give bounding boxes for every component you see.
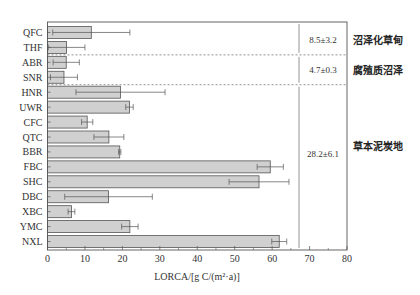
- bar-ymc: [48, 221, 139, 233]
- x-tick-label: 10: [80, 253, 90, 264]
- bars-layer: [48, 26, 289, 247]
- bar-rect: [48, 236, 280, 248]
- group-name-label: 腐殖质沼泽: [353, 64, 403, 76]
- y-tick-label: SHC: [23, 176, 43, 187]
- y-tick-label: QFC: [23, 27, 43, 38]
- x-tick-label: 60: [267, 253, 277, 264]
- x-tick-label: 0: [45, 253, 50, 264]
- y-tick-label: SNR: [23, 72, 43, 83]
- y-tick-label: QTC: [23, 132, 43, 143]
- bar-dbc: [48, 191, 153, 203]
- bar-uwr: [48, 101, 134, 113]
- x-tick-label: 30: [155, 253, 165, 264]
- bar-thf: [48, 41, 85, 53]
- bar-rect: [48, 101, 130, 113]
- bar-hnr: [48, 86, 166, 98]
- y-tick-label: DBC: [22, 191, 43, 202]
- bar-cfc: [48, 116, 93, 128]
- bar-fbc: [48, 161, 284, 173]
- group-name-label: 草本泥炭地: [353, 140, 403, 152]
- bar-xbc: [48, 206, 75, 218]
- group-1: 8.5±3.2沼泽化草甸: [48, 24, 404, 55]
- y-tick-label: ABR: [22, 57, 43, 68]
- bar-qfc: [48, 26, 130, 38]
- bar-qtc: [48, 131, 124, 143]
- x-tick-label: 40: [192, 253, 202, 264]
- bar-nxl: [48, 236, 287, 248]
- y-tick-label: CFC: [24, 117, 43, 128]
- y-tick-label: THF: [24, 42, 43, 53]
- group-mean-label: 4.7±0.3: [309, 65, 337, 75]
- bar-shc: [48, 176, 289, 188]
- group-name-label: 沼泽化草甸: [353, 34, 403, 46]
- bar-rect: [48, 146, 120, 158]
- lorca-bar-chart: QFCTHFABRSNRHNRUWRCFCQTCBBRFBCSHCDBCXBCY…: [0, 0, 420, 295]
- bar-rect: [48, 221, 130, 233]
- group-mean-label: 8.5±3.2: [309, 35, 336, 45]
- x-tick-label: 80: [342, 253, 352, 264]
- bar-snr: [48, 71, 78, 83]
- group-2: 4.7±0.3腐殖质沼泽: [48, 57, 404, 85]
- x-axis-label: LORCA/[g C/(m²·a)]: [154, 271, 239, 283]
- bar-abr: [48, 56, 80, 68]
- y-tick-label: XBC: [22, 206, 43, 217]
- x-tick-label: 20: [117, 253, 127, 264]
- y-tick-label: HNR: [21, 87, 42, 98]
- y-tick-label: YMC: [20, 221, 43, 232]
- y-tick-label: BBR: [22, 146, 42, 157]
- x-tick-label: 50: [230, 253, 240, 264]
- group-mean-label: 28.2±6.1: [307, 149, 339, 159]
- y-tick-label: NXL: [22, 236, 43, 247]
- bar-rect: [48, 161, 271, 173]
- bar-bbr: [48, 146, 121, 158]
- x-tick-label: 70: [305, 253, 315, 264]
- bar-rect: [48, 176, 260, 188]
- y-tick-label: UWR: [19, 102, 43, 113]
- group-3: 28.2±6.1草本泥炭地: [299, 87, 403, 248]
- y-tick-label: FBC: [24, 161, 43, 172]
